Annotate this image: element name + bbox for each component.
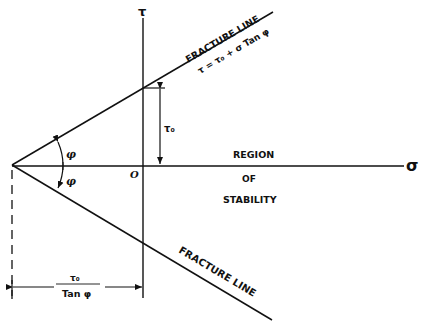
- tau0-over-tanphi-numerator: τ₀: [70, 273, 80, 283]
- lower-fracture-label: FRACTURE LINE: [177, 244, 258, 299]
- tau-axis-label: τ: [138, 4, 146, 19]
- phi-lower-label: φ: [66, 175, 76, 188]
- of-label: OF: [242, 174, 256, 184]
- tau0-over-tanphi-denominator: Tan φ: [62, 288, 91, 299]
- phi-upper-label: φ: [66, 148, 76, 161]
- phi-angle-arc: [58, 142, 63, 188]
- region-label: REGION: [233, 149, 274, 160]
- origin-label: O: [130, 169, 139, 180]
- stability-label: STABILITY: [223, 194, 277, 205]
- lower-fracture-line: [12, 165, 272, 320]
- sigma-axis-label: σ: [406, 156, 418, 175]
- fracture-diagram: τ σ O FRACTURE LINE τ = τ₀ + σ Tan φ FRA…: [0, 0, 427, 327]
- tau0-label: τ₀: [164, 123, 175, 134]
